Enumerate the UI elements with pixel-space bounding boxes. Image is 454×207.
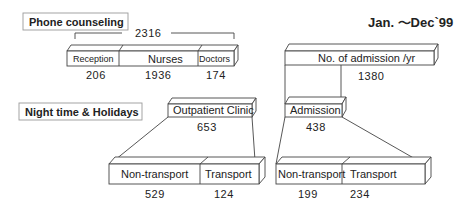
night-holidays-text: Night time & Holidays xyxy=(25,106,139,118)
admission-label: Admission xyxy=(290,104,341,116)
admission-transport-value: 234 xyxy=(350,188,370,200)
outpatient-split-bar: Non-transport Transport 529 124 xyxy=(109,157,265,200)
nurses-label: Nurses xyxy=(148,53,183,65)
outpatient-non-transport-label: Non-transport xyxy=(121,168,188,180)
admission-per-year-value: 1380 xyxy=(358,70,384,82)
nurses-value: 1936 xyxy=(145,69,171,81)
admission-transport-label: Transport xyxy=(350,168,397,180)
reception-value: 206 xyxy=(86,69,106,81)
outpatient-clinic-box: Outpatient Clinic 653 xyxy=(168,98,256,133)
phone-counseling-text: Phone counseling xyxy=(29,16,124,28)
phone-counseling-bar: Reception Nurses Doctors 206 1936 174 xyxy=(67,45,238,81)
admission-box: Admission 438 xyxy=(285,97,346,133)
admission-non-transport-value: 199 xyxy=(298,188,318,200)
outpatient-transport-value: 124 xyxy=(214,188,234,200)
admission-split-bar: Non-transport Transport 199 234 xyxy=(276,157,431,200)
admission-per-year-bar: No. of admission /yr 1380 xyxy=(285,44,438,104)
outpatient-transport-label: Transport xyxy=(205,168,252,180)
outpatient-clinic-label: Outpatient Clinic xyxy=(173,104,254,116)
doctors-label: Doctors xyxy=(199,54,231,64)
reception-label: Reception xyxy=(73,54,114,64)
doctors-value: 174 xyxy=(206,69,226,81)
admission-per-year-label: No. of admission /yr xyxy=(318,52,416,64)
admission-value: 438 xyxy=(306,121,326,133)
admission-non-transport-label: Non-transport xyxy=(278,168,345,180)
outpatient-non-transport-value: 529 xyxy=(145,188,165,200)
period-title: Jan. ～Dec`99 xyxy=(368,15,453,30)
phone-counseling-label: Phone counseling xyxy=(23,13,128,30)
outpatient-clinic-value: 653 xyxy=(197,121,217,133)
diagram-canvas: Phone counseling Night time & Holidays J… xyxy=(0,0,454,207)
night-holidays-label: Night time & Holidays xyxy=(19,103,142,120)
phone-total-value: 2316 xyxy=(135,27,161,39)
